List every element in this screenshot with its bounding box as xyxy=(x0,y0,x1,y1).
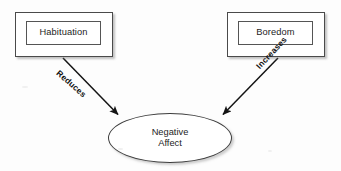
node-negative-affect: Negative Affect xyxy=(108,113,232,163)
node-habituation-label: Habituation xyxy=(39,28,87,37)
node-boredom-label: Boredom xyxy=(256,28,294,37)
diagram-canvas: Habituation Boredom Negative Affect Redu… xyxy=(0,0,341,171)
scan-artifact xyxy=(118,148,123,150)
node-negative-affect-label-line1: Negative xyxy=(152,127,189,139)
node-habituation: Habituation xyxy=(15,12,113,57)
node-habituation-inner-frame: Habituation xyxy=(26,21,101,45)
node-negative-affect-label-line2: Affect xyxy=(158,138,182,150)
scan-artifact xyxy=(268,150,272,152)
arrow-boredom-to-negative-affect xyxy=(223,58,278,115)
scan-artifact xyxy=(22,86,28,88)
edge-label-reduces: Reduces xyxy=(54,68,88,99)
